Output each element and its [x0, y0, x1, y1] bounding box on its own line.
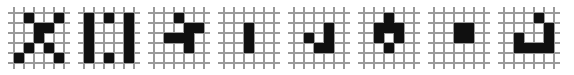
- pattern-cell-filled: [44, 23, 54, 33]
- pattern-cell-filled: [84, 23, 94, 33]
- pattern-cell-filled: [164, 33, 174, 43]
- pattern-cell-empty: [464, 13, 474, 23]
- pattern-cell-filled: [544, 33, 554, 43]
- pattern-cell-empty: [334, 53, 344, 63]
- pattern-cell-empty: [104, 33, 114, 43]
- pattern-cell-empty: [94, 23, 104, 33]
- pattern-cell-empty: [224, 43, 234, 53]
- pattern-cell-empty: [384, 53, 394, 63]
- pattern-cell-empty: [304, 13, 314, 23]
- pattern-cell-grid: [224, 13, 274, 63]
- pattern-cell-empty: [234, 33, 244, 43]
- pattern-cell-empty: [294, 53, 304, 63]
- pattern-cell-empty: [114, 53, 124, 63]
- pattern-cell-empty: [114, 43, 124, 53]
- pattern-cell-empty: [164, 23, 174, 33]
- pattern-cell-filled: [174, 33, 184, 43]
- pattern-cell-empty: [534, 33, 544, 43]
- pattern-cell-empty: [154, 13, 164, 23]
- pattern-cell-empty: [194, 33, 204, 43]
- pattern-cell-filled: [544, 43, 554, 53]
- pattern-cell-filled: [104, 13, 114, 23]
- pattern-cell-empty: [304, 43, 314, 53]
- pattern-cell-empty: [94, 13, 104, 23]
- pattern-cell-empty: [294, 13, 304, 23]
- pattern-cell-filled: [24, 13, 34, 23]
- pattern-cell-empty: [364, 13, 374, 23]
- pattern-cell-empty: [394, 43, 404, 53]
- pattern-cell-empty: [504, 13, 514, 23]
- pattern-cell-filled: [534, 13, 544, 23]
- pattern-cell-empty: [34, 53, 44, 63]
- pattern-cell-empty: [404, 23, 414, 33]
- pattern-cell-empty: [474, 43, 484, 53]
- pattern-cell-empty: [264, 43, 274, 53]
- pattern-cell-filled: [244, 23, 254, 33]
- pattern-cell-empty: [154, 33, 164, 43]
- pattern-cell-filled: [384, 13, 394, 23]
- pattern-cell-empty: [504, 23, 514, 33]
- pattern-cell-empty: [254, 33, 264, 43]
- pattern-2-double-bar: [78, 7, 140, 69]
- pattern-cell-empty: [364, 23, 374, 33]
- pattern-cell-empty: [174, 23, 184, 33]
- pattern-cell-empty: [254, 13, 264, 23]
- pattern-cell-empty: [334, 13, 344, 23]
- pattern-cell-empty: [434, 53, 444, 63]
- pattern-cell-empty: [14, 43, 24, 53]
- pattern-cell-empty: [94, 33, 104, 43]
- pattern-cell-empty: [504, 33, 514, 43]
- pattern-cell-empty: [304, 23, 314, 33]
- pattern-cell-empty: [434, 13, 444, 23]
- pattern-cell-empty: [364, 33, 374, 43]
- pattern-cell-empty: [474, 53, 484, 63]
- pattern-cell-filled: [384, 23, 394, 33]
- pattern-cell-empty: [474, 23, 484, 33]
- pattern-cell-empty: [534, 53, 544, 63]
- pattern-cell-filled: [514, 33, 524, 43]
- pattern-cell-empty: [374, 43, 384, 53]
- pattern-cell-grid: [14, 13, 64, 63]
- pattern-cell-empty: [174, 53, 184, 63]
- pattern-cell-empty: [334, 23, 344, 33]
- pattern-cell-empty: [24, 33, 34, 43]
- pattern-cell-filled: [464, 33, 474, 43]
- pattern-cell-empty: [324, 53, 334, 63]
- pattern-cell-empty: [384, 33, 394, 43]
- pattern-cell-empty: [164, 13, 174, 23]
- pattern-cell-filled: [124, 43, 134, 53]
- pattern-cell-empty: [454, 53, 464, 63]
- pattern-cell-empty: [454, 43, 464, 53]
- pattern-cell-empty: [194, 53, 204, 63]
- pattern-cell-filled: [84, 33, 94, 43]
- pattern-cell-filled: [184, 23, 194, 33]
- pattern-cell-empty: [544, 13, 554, 23]
- pattern-3-arrow: [148, 7, 210, 69]
- pattern-cell-empty: [254, 43, 264, 53]
- pattern-cell-filled: [544, 23, 554, 33]
- pattern-cell-filled: [324, 33, 334, 43]
- pattern-cell-empty: [94, 43, 104, 53]
- pattern-cell-empty: [524, 33, 534, 43]
- pattern-cell-empty: [44, 13, 54, 23]
- pattern-cell-empty: [534, 23, 544, 33]
- pattern-cell-empty: [364, 43, 374, 53]
- pattern-cell-empty: [164, 43, 174, 53]
- pattern-cell-filled: [104, 53, 114, 63]
- pattern-cell-filled: [534, 43, 544, 53]
- pattern-cell-empty: [224, 23, 234, 33]
- pattern-cell-grid: [364, 13, 414, 63]
- pattern-cell-empty: [544, 53, 554, 63]
- pattern-cell-empty: [54, 23, 64, 33]
- pattern-cell-grid: [434, 13, 484, 63]
- pattern-cell-empty: [464, 53, 474, 63]
- pattern-cell-empty: [314, 33, 324, 43]
- pattern-cell-filled: [24, 43, 34, 53]
- pattern-5-hook: [288, 7, 350, 69]
- pattern-cell-filled: [34, 33, 44, 43]
- pattern-cell-filled: [54, 13, 64, 23]
- pattern-cell-empty: [104, 23, 114, 33]
- pattern-cell-filled: [84, 43, 94, 53]
- pattern-6-ring: [358, 7, 420, 69]
- pattern-cell-empty: [314, 53, 324, 63]
